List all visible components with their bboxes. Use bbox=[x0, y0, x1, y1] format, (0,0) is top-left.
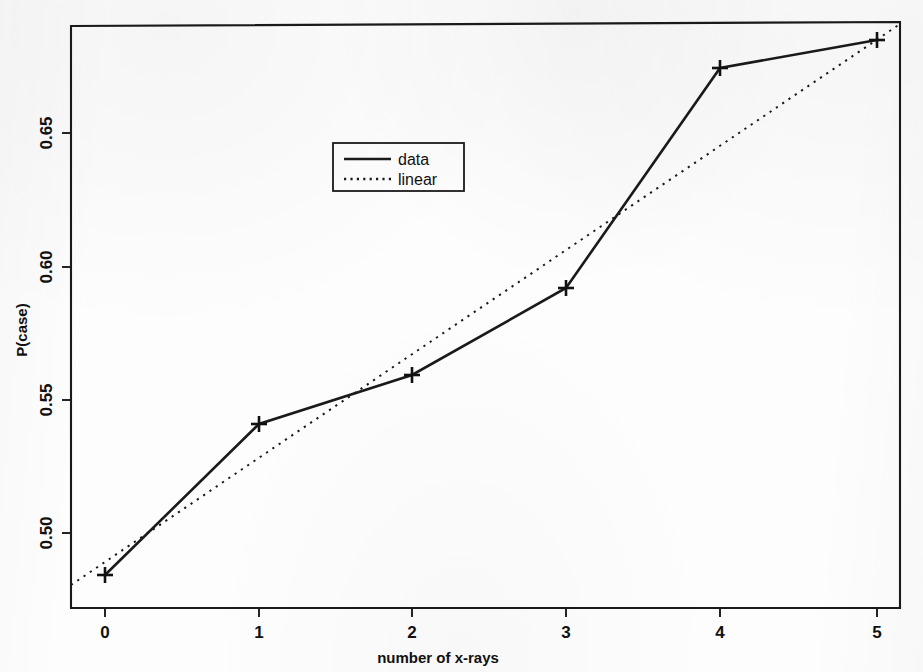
x-tick-label-5: 5 bbox=[872, 623, 881, 642]
x-axis-ticks bbox=[105, 608, 877, 617]
x-tick-label-0: 0 bbox=[100, 623, 109, 642]
legend-label-data: data bbox=[398, 151, 429, 168]
data-point-3 bbox=[558, 280, 574, 296]
x-tick-label-2: 2 bbox=[407, 623, 416, 642]
series-data-markers bbox=[97, 32, 885, 583]
series-linear-line bbox=[71, 24, 900, 585]
x-axis-tick-labels: 0 1 2 3 4 5 bbox=[100, 623, 881, 642]
x-tick-label-3: 3 bbox=[561, 623, 570, 642]
series-data-line bbox=[105, 40, 877, 575]
y-tick-label-0: 0.50 bbox=[37, 516, 56, 549]
x-tick-label-1: 1 bbox=[254, 623, 263, 642]
data-point-4 bbox=[712, 60, 728, 76]
x-axis-title: number of x-rays bbox=[377, 649, 499, 666]
figure-container: 0.50 0.55 0.60 0.65 P(case) 0 1 2 3 4 5 … bbox=[0, 0, 923, 672]
x-tick-label-4: 4 bbox=[715, 623, 725, 642]
data-point-5 bbox=[869, 32, 885, 48]
y-axis-tick-labels: 0.50 0.55 0.60 0.65 bbox=[37, 116, 56, 549]
y-tick-label-3: 0.65 bbox=[37, 116, 56, 149]
legend[interactable]: data linear bbox=[333, 143, 464, 191]
y-axis-title: P(case) bbox=[13, 303, 30, 356]
plot-frame-box bbox=[71, 22, 900, 608]
data-point-2 bbox=[404, 367, 420, 383]
chart-svg: 0.50 0.55 0.60 0.65 P(case) 0 1 2 3 4 5 … bbox=[0, 0, 923, 672]
y-axis-ticks bbox=[62, 133, 71, 533]
y-tick-label-1: 0.55 bbox=[37, 383, 56, 416]
y-tick-label-2: 0.60 bbox=[37, 250, 56, 283]
legend-label-linear: linear bbox=[398, 171, 438, 188]
plot-frame bbox=[71, 22, 900, 608]
